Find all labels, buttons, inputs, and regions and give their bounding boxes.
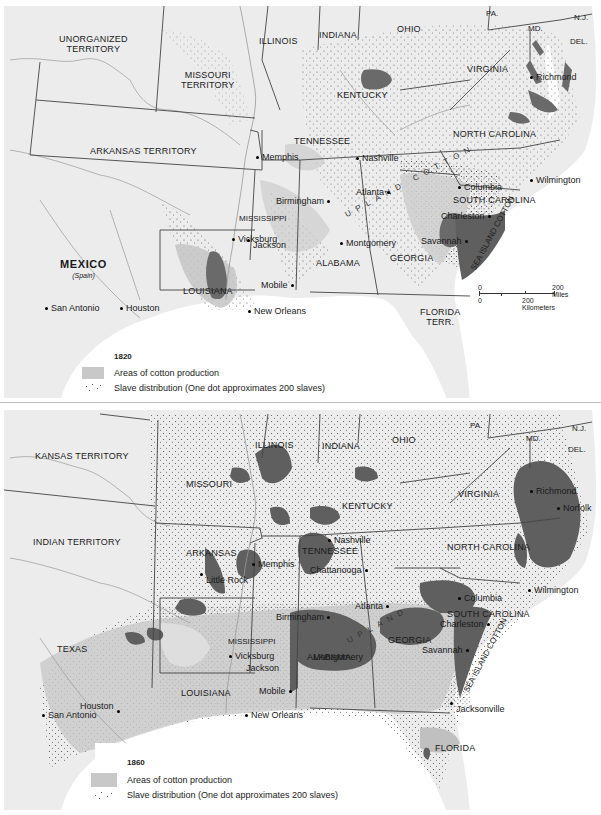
label-alabama: ALABAMA xyxy=(316,259,360,268)
city-nashville: Nashville xyxy=(328,536,371,545)
city-dot-icon xyxy=(291,284,294,287)
city-memphis: Memphis xyxy=(256,153,299,162)
city-dot-icon xyxy=(530,76,533,79)
label-virginia: VIRGINIA xyxy=(467,65,508,74)
city-mobile: Mobile xyxy=(261,281,297,290)
city-dot-icon xyxy=(365,569,368,572)
legend-slave-label: Slave distribution (One dot approximates… xyxy=(127,790,338,800)
city-dot-icon xyxy=(528,589,531,592)
city-dot-icon xyxy=(458,186,461,189)
city-jackson: Jackson xyxy=(247,241,286,250)
label-illinois: ILLINOIS xyxy=(255,441,294,450)
legend-slave-label: Slave distribution (One dot approximates… xyxy=(114,383,325,393)
city-dot-icon xyxy=(466,649,469,652)
label-unorganized-territory: UNORGANIZED TERRITORY xyxy=(59,35,128,54)
city-charleston: Charleston xyxy=(441,212,494,221)
city-columbia: Columbia xyxy=(458,183,502,192)
map-1820: UNORGANIZED TERRITORY MISSOURI TERRITORY… xyxy=(0,0,601,402)
label-missouri-territory: MISSOURI TERRITORY xyxy=(181,71,234,90)
label-ohio: OHIO xyxy=(392,436,416,445)
city-montgomery: Montgomery xyxy=(313,653,363,662)
label-arkansas-territory: ARKANSAS TERRITORY xyxy=(90,147,197,156)
city-houston: Houston xyxy=(120,304,160,313)
cotton-area-swatch-icon xyxy=(82,367,104,379)
slave-dots-swatch-icon xyxy=(82,383,104,393)
city-columbia: Columbia xyxy=(458,594,502,603)
city-montgomery: Montgomery xyxy=(340,239,396,248)
label-georgia: GEORGIA xyxy=(388,636,431,645)
legend-year: 1820 xyxy=(114,352,325,361)
label-florida: FLORIDA xyxy=(435,744,475,753)
city-dot-icon xyxy=(530,179,533,182)
city-dot-icon xyxy=(42,714,45,717)
label-del: DEL. xyxy=(568,446,586,454)
label-louisiana: LOUISIANA xyxy=(183,287,233,296)
legend-cotton-label: Areas of cotton production xyxy=(127,775,232,785)
city-dot-icon xyxy=(328,539,331,542)
city-dot-icon xyxy=(289,690,292,693)
city-dot-icon xyxy=(458,597,461,600)
label-south-carolina: SOUTH CAROLINA xyxy=(447,610,530,619)
city-wilmington: Wilmington xyxy=(528,586,579,595)
label-indian-territory: INDIAN TERRITORY xyxy=(33,538,121,547)
legend-cotton-label: Areas of cotton production xyxy=(114,368,219,378)
label-texas: TEXAS xyxy=(57,645,88,654)
city-mobile: Mobile xyxy=(259,687,295,696)
city-richmond: Richmond xyxy=(530,73,577,82)
city-dot-icon xyxy=(340,242,343,245)
city-dot-icon xyxy=(387,191,390,194)
label-md: MD. xyxy=(526,435,541,443)
label-south-carolina: SOUTH CAROLINA xyxy=(453,196,536,205)
city-richmond: Richmond xyxy=(530,487,577,496)
city-atlanta: Atlanta xyxy=(356,188,393,197)
city-charleston: Charleston xyxy=(440,620,493,629)
city-dot-icon xyxy=(487,623,490,626)
label-georgia: GEORGIA xyxy=(390,254,433,263)
city-vicksburg: Vicksburg xyxy=(229,652,274,661)
city-dot-icon xyxy=(256,156,259,159)
city-dot-icon xyxy=(247,239,250,242)
city-birmingham: Birmingham xyxy=(276,613,333,622)
label-north-carolina: NORTH CAROLINA xyxy=(447,543,530,552)
city-dot-icon xyxy=(327,616,330,619)
slave-dots-swatch-icon xyxy=(91,790,117,800)
city-dot-icon xyxy=(45,307,48,310)
label-kentucky: KENTUCKY xyxy=(337,91,388,100)
city-norfolk: Norfolk xyxy=(557,504,592,513)
label-missouri: MISSOURI xyxy=(186,480,232,489)
city-dot-icon xyxy=(450,702,453,705)
city-nashville: Nashville xyxy=(356,154,399,163)
label-illinois: ILLINOIS xyxy=(259,37,298,46)
city-jacksonville: Jacksonville xyxy=(450,705,505,714)
city-birmingham: Birmingham xyxy=(276,197,333,206)
city-dot-icon xyxy=(530,490,533,493)
label-louisiana: LOUISIANA xyxy=(181,689,231,698)
label-kentucky: KENTUCKY xyxy=(342,502,393,511)
label-pa: PA. xyxy=(486,10,498,18)
city-dot-icon xyxy=(252,563,255,566)
city-dot-icon xyxy=(232,238,235,241)
label-indiana: INDIANA xyxy=(322,442,360,451)
city-atlanta: Atlanta xyxy=(355,602,392,611)
scale-line xyxy=(479,293,555,294)
city-new-orleans: New Orleans xyxy=(245,711,303,720)
city-dot-icon xyxy=(327,200,330,203)
city-little-rock: Little Rock xyxy=(200,576,248,585)
city-dot-icon xyxy=(245,714,248,717)
label-tennessee: TENNESSEE xyxy=(294,137,350,146)
city-jackson: Jackson xyxy=(246,664,279,673)
label-mississippi: MISSISSIPPI xyxy=(228,638,276,646)
label-north-carolina: NORTH CAROLINA xyxy=(453,130,536,139)
city-dot-icon xyxy=(200,573,203,576)
label-florida-territory: FLORIDA TERR. xyxy=(420,308,460,327)
city-savannah: Savannah xyxy=(422,646,472,655)
label-kansas-territory: KANSAS TERRITORY xyxy=(35,452,129,461)
cotton-area-swatch-icon xyxy=(91,773,117,787)
city-savannah: Savannah xyxy=(421,237,471,246)
label-mexico: MEXICO (Spain) xyxy=(60,259,107,279)
city-san-antonio: San Antonio xyxy=(45,304,100,313)
label-ohio: OHIO xyxy=(397,25,421,34)
city-memphis: Memphis xyxy=(252,560,295,569)
label-indiana: INDIANA xyxy=(319,31,357,40)
label-pa: PA. xyxy=(470,422,482,430)
